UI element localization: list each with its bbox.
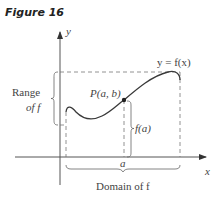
function-curve [66,71,180,119]
curve-label: y = f(x) [157,56,191,69]
point-label: P(a, b) [89,87,121,100]
a-tick-label: a [120,157,126,169]
fa-brace [127,101,134,157]
point-p [122,98,126,102]
range-label-line1: Range [12,86,40,98]
y-axis-label: y [65,25,71,37]
function-diagram: y x y = f(x) P(a, b) f(a) a Range of f D… [0,0,223,200]
fa-label: f(a) [135,122,151,135]
range-label-line2: of f [26,101,42,113]
range-brace [51,72,58,125]
x-axis-label: x [204,165,210,177]
domain-label: Domain of f [96,180,150,192]
